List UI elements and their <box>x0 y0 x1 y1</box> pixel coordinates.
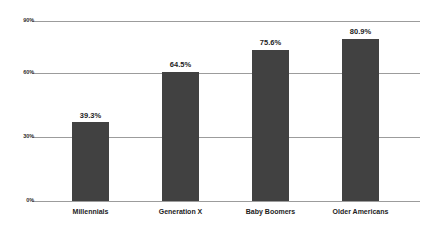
y-axis-tick-90: 90% <box>0 18 34 24</box>
x-axis-label-older-americans: Older Americans <box>306 208 416 215</box>
bar-chart: 90% 60% 30% 0% 39.3% 64.5% 75.6% 80.9% M… <box>0 0 442 236</box>
axis-baseline <box>32 201 420 202</box>
bar-generation-x[interactable] <box>162 72 199 201</box>
bar-millennials[interactable] <box>72 122 109 201</box>
y-axis-tick-60: 60% <box>0 70 34 76</box>
bar-value-millennials: 39.3% <box>56 112 126 120</box>
gridline-90 <box>32 21 420 22</box>
bar-value-baby-boomers: 75.6% <box>236 39 306 47</box>
plot-area: 90% 60% 30% 0% 39.3% 64.5% 75.6% 80.9% M… <box>0 0 442 236</box>
bar-baby-boomers[interactable] <box>252 50 289 201</box>
y-axis-tick-30: 30% <box>0 134 34 140</box>
bar-value-older-americans: 80.9% <box>326 28 396 36</box>
y-axis-tick-0: 0% <box>0 198 34 204</box>
bar-older-americans[interactable] <box>342 39 379 201</box>
bar-value-generation-x: 64.5% <box>146 61 216 69</box>
